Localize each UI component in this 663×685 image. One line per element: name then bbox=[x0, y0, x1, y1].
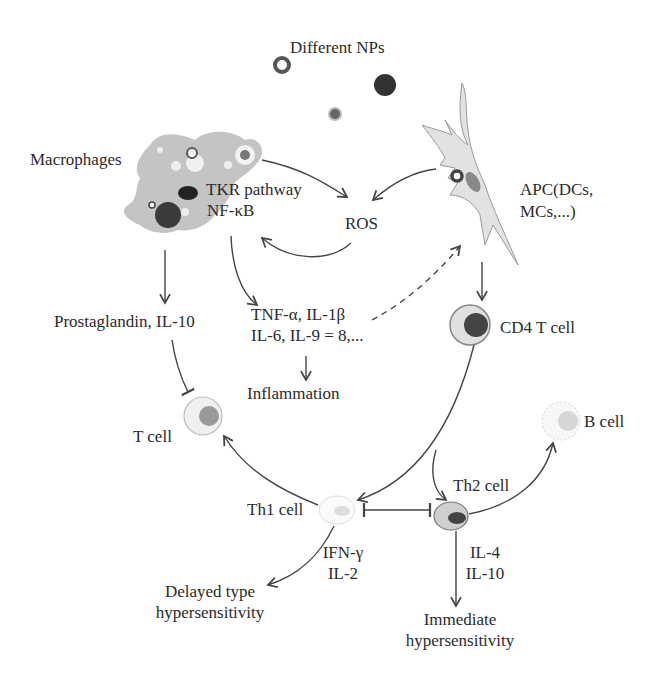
label-il-4: IL-4 bbox=[460, 543, 510, 563]
label-apc-line1: APC(DCs, bbox=[520, 180, 593, 200]
arrow-nfkb-to-cytokines bbox=[231, 236, 257, 305]
arrow-apc-to-ros bbox=[373, 169, 436, 200]
dashed-arrow-cytokines-to-apc bbox=[372, 246, 460, 320]
label-th2-cell: Th2 cell bbox=[453, 476, 509, 496]
label-macrophages: Macrophages bbox=[30, 150, 122, 170]
label-cytokines-line1: TNF-α, IL-1β bbox=[251, 305, 345, 325]
t-cell bbox=[184, 397, 222, 435]
b-cell bbox=[542, 402, 580, 440]
label-immediate-hypersensitivity: hypersensitivity bbox=[390, 631, 530, 651]
nanoparticles bbox=[275, 58, 396, 120]
arrow-th1-to-tcell bbox=[224, 436, 318, 505]
np-ring-icon bbox=[275, 58, 289, 72]
th1-cell bbox=[319, 496, 355, 524]
label-delayed-hypersensitivity: hypersensitivity bbox=[140, 603, 280, 623]
label-tkr-pathway: TKR pathway bbox=[206, 180, 302, 200]
label-inflammation: Inflammation bbox=[247, 384, 340, 404]
label-il-2: IL-2 bbox=[318, 564, 368, 584]
label-delayed-type: Delayed type bbox=[140, 582, 280, 602]
label-apc-line2: MCs,...) bbox=[520, 202, 576, 222]
label-nfkb: NF-κB bbox=[207, 201, 254, 221]
label-ifn-gamma: IFN-γ bbox=[318, 543, 368, 563]
label-prostaglandin: Prostaglandin, IL-10 bbox=[54, 312, 195, 332]
label-il-10: IL-10 bbox=[460, 564, 510, 584]
label-t-cell: T cell bbox=[133, 427, 172, 447]
label-th1-cell: Th1 cell bbox=[247, 500, 303, 520]
arrow-ros-to-nfkb bbox=[262, 238, 351, 257]
label-cd4-t-cell: CD4 T cell bbox=[500, 318, 575, 338]
label-different-nps: Different NPs bbox=[290, 38, 385, 58]
inhibit-prostaglandin-to-tcell bbox=[172, 340, 188, 392]
arrow-cd4-to-th2 bbox=[433, 450, 446, 500]
label-cytokines-line2: IL-6, IL-9 = 8,... bbox=[251, 326, 364, 346]
apc-np-ring-icon bbox=[452, 171, 462, 181]
th2-cell bbox=[434, 502, 468, 530]
np-small-icon bbox=[329, 108, 341, 120]
np-dark-icon bbox=[374, 74, 396, 96]
label-ros: ROS bbox=[345, 214, 378, 234]
apc-cell bbox=[422, 83, 518, 265]
cd4-t-cell bbox=[450, 305, 490, 345]
label-immediate: Immediate bbox=[390, 610, 530, 630]
label-b-cell: B cell bbox=[584, 412, 624, 432]
